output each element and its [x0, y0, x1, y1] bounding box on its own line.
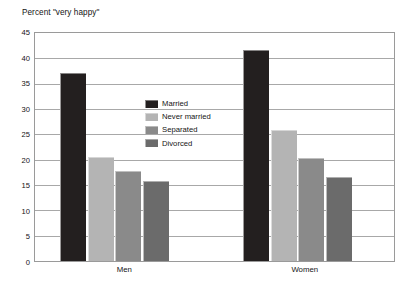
- chart-title: Percent "very happy": [22, 8, 99, 17]
- legend-item-married: Married: [145, 97, 231, 110]
- bar-women-divorced: [326, 177, 352, 261]
- legend-label: Never married: [162, 112, 211, 121]
- y-tick-label: 5: [4, 232, 30, 241]
- gridline: [35, 58, 394, 59]
- bar-men-separated: [115, 171, 141, 261]
- y-axis-tick-labels: 45 40 35 30 25 20 15 10 5 0: [0, 32, 30, 262]
- y-tick-label: 40: [4, 53, 30, 62]
- y-tick-label: 20: [4, 155, 30, 164]
- bar-men-married: [60, 73, 86, 261]
- bar-face: [326, 177, 352, 261]
- chart-legend: MarriedNever marriedSeparatedDivorced: [145, 97, 231, 150]
- y-tick-label: 35: [4, 79, 30, 88]
- bar-face: [271, 130, 297, 261]
- legend-item-divorced: Divorced: [145, 137, 231, 150]
- legend-swatch-icon: [145, 113, 158, 121]
- y-tick-label: 30: [4, 104, 30, 113]
- legend-swatch-icon: [145, 100, 158, 108]
- plot-area: MarriedNever marriedSeparatedDivorced: [34, 32, 395, 262]
- y-tick-label: 45: [4, 28, 30, 37]
- bar-face: [60, 73, 86, 261]
- y-tick-label: 15: [4, 181, 30, 190]
- gridline: [35, 84, 394, 85]
- bar-women-separated: [298, 158, 324, 261]
- legend-swatch-icon: [145, 139, 158, 147]
- x-group-label: Women: [291, 265, 318, 274]
- y-tick-label: 25: [4, 130, 30, 139]
- bar-face: [298, 158, 324, 261]
- bar-face: [143, 181, 169, 261]
- bar-chart-figure: Percent "very happy" 45 40 35 30 25 20 1…: [0, 0, 417, 288]
- bar-face: [115, 171, 141, 261]
- bar-face: [88, 157, 114, 261]
- bar-face: [243, 50, 269, 261]
- legend-label: Divorced: [162, 139, 192, 148]
- legend-label: Married: [162, 99, 188, 108]
- y-tick-label: 0: [4, 258, 30, 267]
- legend-label: Separated: [162, 125, 197, 134]
- bar-men-never-married: [88, 157, 114, 261]
- bar-women-married: [243, 50, 269, 261]
- legend-item-separated: Separated: [145, 123, 231, 136]
- legend-item-never-married: Never married: [145, 110, 231, 123]
- x-axis-group-labels: Men Women: [34, 265, 395, 281]
- bar-men-divorced: [143, 181, 169, 261]
- legend-swatch-icon: [145, 126, 158, 134]
- x-group-label: Men: [117, 265, 132, 274]
- bar-women-never-married: [271, 130, 297, 261]
- y-tick-label: 10: [4, 206, 30, 215]
